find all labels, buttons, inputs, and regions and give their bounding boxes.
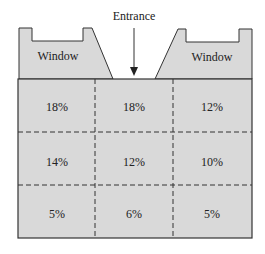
cell-value: 12%	[201, 100, 223, 114]
cell-value: 18%	[46, 100, 68, 114]
cell-value: 5%	[204, 207, 220, 221]
store-layout-diagram: Entrance Window Window 18% 18% 12% 14% 1…	[0, 0, 265, 254]
cell-value: 5%	[49, 207, 65, 221]
entrance-label: Entrance	[113, 9, 156, 23]
cell-value: 6%	[126, 207, 142, 221]
right-window-label: Window	[192, 50, 233, 64]
cell-value: 10%	[201, 155, 223, 169]
cell-value: 14%	[46, 155, 68, 169]
cell-value: 18%	[123, 100, 145, 114]
entrance-arrow-icon	[130, 67, 138, 76]
cell-value: 12%	[123, 155, 145, 169]
left-window-label: Window	[38, 49, 79, 63]
